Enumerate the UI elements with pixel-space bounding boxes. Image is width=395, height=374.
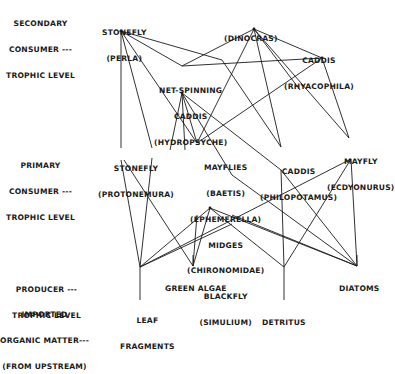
node-detritus: DETRITUS xyxy=(262,302,306,336)
node-text: (PERLA) xyxy=(102,55,147,64)
node-text: (PROTONEMURA) xyxy=(98,191,174,200)
node-text: FRAGMENTS xyxy=(120,343,175,352)
node-text: (DINOCRAS) xyxy=(224,35,278,44)
node-text: MAYFLIES xyxy=(187,164,264,173)
node-text: STONEFLY xyxy=(98,165,174,174)
node-text: STONEFLY xyxy=(102,29,147,38)
level-text: CONSUMER --- xyxy=(6,188,75,197)
node-stonefly-perla: STONEFLY (PERLA) xyxy=(102,12,147,72)
node-mayfly-ecdyonurus: MAYFLY (ECDYONURUS) xyxy=(327,141,395,201)
feeding-link xyxy=(222,60,281,147)
node-text: DETRITUS xyxy=(262,319,306,328)
node-text: (ECDYONURUS) xyxy=(327,184,395,193)
level-text: ORGANIC MATTER--- xyxy=(0,337,89,346)
node-text: GREEN ALGAE xyxy=(165,285,227,294)
node-dinocras: (DINOCRAS) xyxy=(224,18,278,52)
node-text: (EPHEMERELLA) xyxy=(187,216,264,225)
node-text: DIATOMS xyxy=(339,285,379,294)
level-text: PRIMARY xyxy=(6,162,75,171)
node-text: MAYFLY xyxy=(327,158,395,167)
level-text: (FROM UPSTREAM) xyxy=(0,363,89,372)
node-text: (BAETIS) xyxy=(187,190,264,199)
node-leaf-fragments: LEAF FRAGMENTS xyxy=(120,300,175,360)
level-text: TROPHIC LEVEL xyxy=(6,214,75,223)
node-mayflies-midges-blackfly: MAYFLIES (BAETIS) (EPHEMERELLA) MIDGES (… xyxy=(187,147,264,336)
node-diatoms: DIATOMS xyxy=(339,268,379,302)
node-caddis-philopotamus: CADDIS (PHILOPOTAMUS) xyxy=(260,151,337,211)
level-text: IMPORTED xyxy=(0,311,89,320)
node-text: CADDIS xyxy=(284,57,354,66)
node-text: CADDIS xyxy=(154,113,227,122)
level-label-secondary-consumer: SECONDARY CONSUMER --- TROPHIC LEVEL xyxy=(6,3,75,89)
node-text: CADDIS xyxy=(260,168,337,177)
node-green-algae: GREEN ALGAE xyxy=(165,268,227,302)
node-text: (SIMULIUM) xyxy=(187,319,264,328)
level-text: CONSUMER --- xyxy=(6,46,75,55)
node-stonefly-protonemura: STONEFLY (PROTONEMURA) xyxy=(98,148,174,208)
level-text: TROPHIC LEVEL xyxy=(6,72,75,81)
level-label-imported-organic-matter: IMPORTED ORGANIC MATTER--- (FROM UPSTREA… xyxy=(0,294,89,374)
level-label-primary-consumer: PRIMARY CONSUMER --- TROPHIC LEVEL xyxy=(6,145,75,231)
node-text: (PHILOPOTAMUS) xyxy=(260,194,337,203)
node-text: MIDGES xyxy=(187,242,264,251)
level-text: SECONDARY xyxy=(6,20,75,29)
node-text: (RHYACOPHILA) xyxy=(284,83,354,92)
node-text: LEAF xyxy=(120,317,175,326)
node-caddis-rhyacophila: CADDIS (RHYACOPHILA) xyxy=(284,40,354,100)
node-net-spinning-caddis-hydropsyche: NET-SPINNING CADDIS (HYDROPSYCHE) xyxy=(154,70,227,156)
node-text: NET-SPINNING xyxy=(154,87,227,96)
